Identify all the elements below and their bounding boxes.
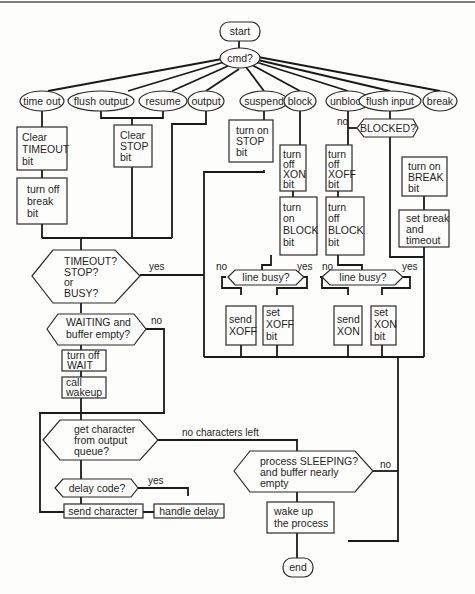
svg-text:TIMEOUT: TIMEOUT: [22, 143, 70, 155]
svg-text:start: start: [230, 25, 251, 37]
svg-text:WAIT: WAIT: [67, 359, 93, 371]
svg-text:yes: yes: [402, 261, 418, 272]
svg-text:handle delay: handle delay: [159, 505, 219, 517]
svg-text:timeout: timeout: [406, 234, 441, 246]
svg-text:empty: empty: [260, 477, 289, 489]
box-turn-off-break: turn off break bit: [17, 178, 67, 224]
svg-text:delay code?: delay code?: [69, 482, 126, 494]
svg-text:XOFF: XOFF: [266, 318, 294, 330]
svg-text:bit: bit: [266, 330, 277, 342]
box-set-xoff-bit: set XOFF bit: [263, 306, 294, 345]
svg-text:yes: yes: [149, 261, 165, 272]
box-send-xon: send XON: [334, 306, 362, 345]
box-turn-off-xon: turn off XON bit: [280, 145, 306, 191]
svg-text:BLOCKED?: BLOCKED?: [360, 122, 416, 134]
svg-text:on: on: [283, 212, 295, 224]
decision-timeout-stop-busy: TIMEOUT? STOP? or BUSY?: [32, 250, 140, 303]
svg-text:set: set: [374, 306, 388, 318]
svg-text:queue?: queue?: [74, 445, 109, 457]
end-terminal: end: [283, 558, 313, 577]
svg-text:resume: resume: [145, 95, 180, 107]
svg-text:no: no: [337, 116, 349, 127]
decision-blocked: BLOCKED?: [357, 119, 418, 137]
box-clear-stop: Clear STOP bit: [114, 125, 152, 167]
box-turn-on-block: turn on BLOCK bit: [280, 197, 319, 255]
svg-text:flush input: flush input: [366, 95, 414, 107]
svg-text:WAITING and: WAITING and: [66, 316, 131, 328]
box-call-wakeup: call wakeup: [62, 376, 106, 398]
start-terminal: start: [220, 22, 260, 41]
svg-text:flush output: flush output: [74, 95, 128, 107]
svg-text:suspend: suspend: [244, 95, 284, 107]
svg-text:bit: bit: [408, 182, 419, 194]
svg-text:no characters left: no characters left: [182, 427, 259, 438]
svg-text:XON: XON: [374, 318, 397, 330]
box-send-character: send character: [64, 504, 143, 518]
svg-text:line busy?: line busy?: [339, 271, 386, 283]
box-turn-off-block: turn off BLOCK bit: [326, 197, 364, 255]
command-nodes: time out flush output resume output susp…: [20, 91, 457, 111]
svg-text:bit: bit: [328, 236, 339, 248]
svg-text:bit: bit: [120, 151, 131, 163]
svg-text:send: send: [337, 313, 360, 325]
box-turn-off-xoff: turn off XOFF bit: [326, 145, 356, 191]
svg-text:time out: time out: [23, 95, 60, 107]
svg-text:off: off: [328, 212, 340, 224]
svg-text:send: send: [229, 313, 252, 325]
svg-text:bit: bit: [283, 178, 294, 190]
svg-text:bit: bit: [374, 330, 385, 342]
svg-text:set: set: [266, 306, 280, 318]
svg-text:send character: send character: [68, 505, 138, 517]
svg-text:yes: yes: [148, 475, 164, 486]
box-wake-up-process: wake up the process: [267, 502, 334, 533]
svg-text:cmd?: cmd?: [227, 52, 253, 64]
svg-text:block: block: [288, 95, 313, 107]
svg-text:no: no: [216, 261, 228, 272]
svg-text:line busy?: line busy?: [242, 271, 289, 283]
svg-text:bit: bit: [328, 178, 339, 190]
box-turn-off-wait: turn off WAIT: [62, 349, 106, 371]
svg-text:bit: bit: [27, 207, 38, 219]
svg-text:no: no: [151, 315, 163, 326]
svg-text:wakeup: wakeup: [65, 386, 102, 398]
svg-text:wake up: wake up: [273, 505, 313, 517]
decision-line-busy-1: line busy?: [228, 270, 304, 285]
svg-text:no: no: [380, 459, 392, 470]
svg-text:BUSY?: BUSY?: [64, 287, 99, 299]
svg-text:BLOCK: BLOCK: [328, 224, 364, 236]
svg-text:XOFF: XOFF: [229, 325, 257, 337]
svg-text:BLOCK: BLOCK: [283, 224, 319, 236]
decision-waiting-buffer-empty: WAITING and buffer empty?: [47, 314, 146, 345]
svg-text:output: output: [191, 95, 220, 107]
svg-text:yes: yes: [297, 261, 313, 272]
flowchart: start cmd? end time out flush output res…: [0, 0, 475, 594]
decision-process-sleeping: process SLEEPING? and buffer nearly empt…: [234, 451, 373, 492]
svg-text:Clear: Clear: [22, 131, 48, 143]
svg-text:the process: the process: [274, 517, 328, 529]
svg-text:bit: bit: [236, 146, 247, 158]
svg-text:break: break: [427, 95, 454, 107]
cmd-node: cmd?: [220, 48, 260, 68]
svg-text:buffer empty?: buffer empty?: [66, 328, 130, 340]
svg-text:no: no: [322, 261, 334, 272]
box-handle-delay: handle delay: [154, 504, 224, 518]
svg-text:turn off: turn off: [27, 183, 60, 195]
decision-get-character: get character from output queue?: [43, 420, 158, 460]
box-set-xon-bit: set XON bit: [371, 306, 397, 345]
decision-line-busy-2: line busy?: [322, 270, 403, 285]
box-turn-on-break: turn on BREAK bit: [402, 157, 447, 196]
svg-text:break: break: [27, 195, 54, 207]
svg-text:XON: XON: [337, 325, 360, 337]
box-turn-on-stop: turn on STOP bit: [229, 120, 273, 162]
svg-text:bit: bit: [283, 236, 294, 248]
box-clear-timeout: Clear TIMEOUT bit: [17, 127, 70, 170]
svg-text:bit: bit: [22, 155, 33, 167]
box-set-break-timeout: set break and timeout: [399, 210, 450, 247]
box-send-xoff: send XOFF: [226, 306, 257, 345]
decision-delay-code: delay code?: [55, 479, 138, 497]
svg-text:end: end: [289, 561, 307, 573]
